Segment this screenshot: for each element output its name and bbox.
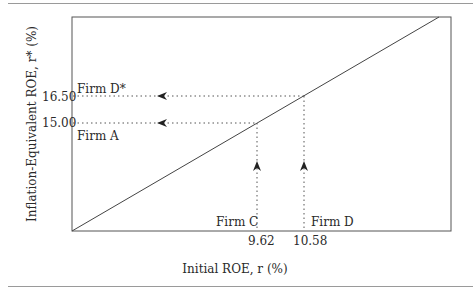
label-firm-d: Firm D	[311, 216, 354, 228]
label-firm-dstar: Firm D*	[77, 83, 126, 95]
roe-line	[72, 17, 439, 231]
chart-plot	[0, 0, 473, 291]
arrow-left-icon	[157, 92, 167, 100]
y-tick-15-00: 15.00	[42, 117, 76, 129]
label-firm-a: Firm A	[77, 130, 119, 142]
y-tick-16-50: 16.50	[42, 91, 76, 103]
x-tick-10-58: 10.58	[293, 235, 327, 247]
x-tick-9-62: 9.62	[248, 235, 275, 247]
y-axis-label: Inflation-Equivalent ROE, r* (%)	[25, 26, 39, 222]
plot-frame	[72, 17, 451, 231]
arrow-left-icon	[157, 119, 167, 127]
x-axis-label: Initial ROE, r (%)	[182, 262, 287, 276]
label-firm-c: Firm C	[216, 216, 258, 228]
